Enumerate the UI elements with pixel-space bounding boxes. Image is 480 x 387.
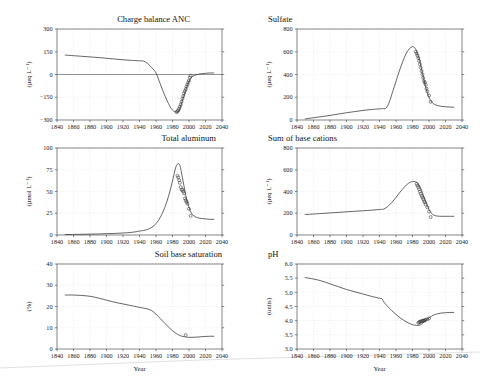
panel-title: Total aluminum <box>161 133 216 143</box>
x-tick-label: 1840 <box>51 352 63 359</box>
x-tick-label: 1960 <box>390 123 402 130</box>
x-tick-label: 1900 <box>340 352 352 359</box>
x-tick-label: 2020 <box>439 238 451 245</box>
x-tick-label: 1980 <box>166 123 178 130</box>
x-tick-label: 1980 <box>166 238 178 245</box>
y-tick-label: 200 <box>283 209 292 216</box>
y-tick-label: 3.5 <box>285 331 293 338</box>
x-tick-label: 1880 <box>84 123 96 130</box>
y-tick-label: 6.0 <box>285 260 293 267</box>
x-tick-label: 1980 <box>166 352 178 359</box>
x-tick-label: 1920 <box>357 238 369 245</box>
x-tick-label: 2020 <box>439 352 451 359</box>
y-axis-label: (µeq L⁻¹) <box>265 178 273 204</box>
y-tick-label: 150 <box>43 48 52 55</box>
figure-canvas: 1840186018801900192019401960198020002020… <box>0 0 480 387</box>
x-tick-label: 2040 <box>216 123 228 130</box>
x-tick-label: 2040 <box>456 238 468 245</box>
panel-title: pH <box>268 249 279 259</box>
x-tick-label: 1940 <box>133 238 145 245</box>
panel-title: Sulfate <box>268 14 293 24</box>
y-tick-label: 0 <box>289 231 292 238</box>
x-tick-label: 1920 <box>117 238 129 245</box>
x-tick-label: 1880 <box>324 238 336 245</box>
y-tick-label: 800 <box>283 144 292 151</box>
y-axis-label: (%) <box>25 302 33 312</box>
x-tick-label: 1860 <box>67 352 79 359</box>
panel-title: Charge balance ANC <box>117 14 190 24</box>
x-tick-label: 1940 <box>373 123 385 130</box>
y-axis-label: (units) <box>265 298 273 315</box>
y-tick-label: 200 <box>283 93 292 100</box>
x-tick-label: 2000 <box>423 352 435 359</box>
x-tick-label: 1840 <box>291 123 303 130</box>
x-tick-label: 1840 <box>51 123 63 130</box>
y-tick-label: 5.5 <box>285 274 293 281</box>
figure-background <box>0 0 480 387</box>
magic-model-figure: 1840186018801900192019401960198020002020… <box>0 0 480 387</box>
x-tick-label: 1920 <box>117 352 129 359</box>
x-tick-label: 1840 <box>291 352 303 359</box>
y-tick-label: 600 <box>283 166 292 173</box>
y-tick-label: 0 <box>49 71 52 78</box>
x-tick-label: 1840 <box>51 238 63 245</box>
y-tick-label: 400 <box>283 71 292 78</box>
y-tick-label: 20 <box>46 303 52 310</box>
x-tick-label: 2020 <box>199 123 211 130</box>
x-tick-label: 1980 <box>406 123 418 130</box>
x-tick-label: 2000 <box>423 238 435 245</box>
y-tick-label: −150 <box>40 93 53 100</box>
y-tick-label: 0 <box>49 231 52 238</box>
y-tick-label: 0 <box>49 345 52 352</box>
x-tick-label: 1920 <box>357 352 369 359</box>
x-tick-label: 1840 <box>291 238 303 245</box>
x-tick-label: 1980 <box>406 238 418 245</box>
x-axis-label: Year <box>133 365 146 372</box>
x-tick-label: 1940 <box>133 352 145 359</box>
x-tick-label: 1860 <box>307 238 319 245</box>
y-tick-label: 100 <box>43 144 52 151</box>
panel-title: Sum of base cations <box>268 133 338 143</box>
y-tick-label: 3.0 <box>285 345 293 352</box>
x-tick-label: 2040 <box>456 123 468 130</box>
x-tick-label: 1880 <box>84 352 96 359</box>
y-tick-label: 600 <box>283 48 292 55</box>
x-tick-label: 2040 <box>216 238 228 245</box>
y-tick-label: 800 <box>283 25 292 32</box>
panel-title: Soil base saturation <box>155 249 223 259</box>
x-tick-label: 1880 <box>84 238 96 245</box>
x-tick-label: 2000 <box>183 123 195 130</box>
x-tick-label: 1940 <box>373 352 385 359</box>
y-axis-label: (µmol L⁻¹) <box>25 176 33 206</box>
x-tick-label: 1900 <box>100 238 112 245</box>
x-tick-label: 2040 <box>456 352 468 359</box>
y-tick-label: 75 <box>46 166 52 173</box>
y-tick-label: 300 <box>43 25 52 32</box>
x-tick-label: 2020 <box>199 352 211 359</box>
x-tick-label: 1900 <box>100 352 112 359</box>
y-tick-label: −300 <box>40 116 53 123</box>
y-axis-label: (µeq L⁻¹) <box>265 61 273 87</box>
x-tick-label: 1960 <box>390 238 402 245</box>
y-tick-label: 4.0 <box>285 317 293 324</box>
x-tick-label: 1900 <box>340 123 352 130</box>
y-tick-label: 400 <box>283 188 292 195</box>
x-tick-label: 1960 <box>390 352 402 359</box>
x-tick-label: 1980 <box>406 352 418 359</box>
x-tick-label: 1920 <box>117 123 129 130</box>
x-tick-label: 1900 <box>340 238 352 245</box>
y-tick-label: 25 <box>46 209 52 216</box>
y-tick-label: 40 <box>46 260 52 267</box>
x-tick-label: 2040 <box>216 352 228 359</box>
y-tick-label: 0 <box>289 116 292 123</box>
y-tick-label: 50 <box>46 188 52 195</box>
x-tick-label: 1960 <box>150 238 162 245</box>
y-tick-label: 10 <box>46 324 52 331</box>
x-tick-label: 1860 <box>67 123 79 130</box>
x-tick-label: 1860 <box>67 238 79 245</box>
x-tick-label: 2020 <box>199 238 211 245</box>
x-tick-label: 1920 <box>357 123 369 130</box>
x-tick-label: 2000 <box>183 238 195 245</box>
y-axis-label: (µeq L⁻¹) <box>25 61 33 87</box>
x-tick-label: 2000 <box>423 123 435 130</box>
